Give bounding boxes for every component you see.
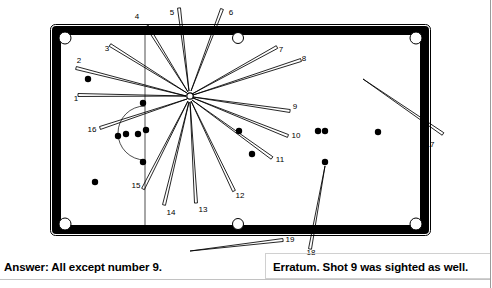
shot-label-19: 19 <box>286 235 295 244</box>
pocket-bottom-left <box>59 218 71 230</box>
object-ball <box>140 159 146 165</box>
shot-label-10: 10 <box>292 131 301 140</box>
object-ball <box>140 100 146 106</box>
shot-label-12: 12 <box>236 191 245 200</box>
shot-label-2: 2 <box>77 56 82 65</box>
shot-label-4: 4 <box>135 12 140 21</box>
object-ball <box>315 128 321 134</box>
figure-page: 12345678910111213141516171819 Answer: Al… <box>0 0 492 288</box>
shot-label-15: 15 <box>132 181 141 190</box>
shot-line-19 <box>190 239 283 251</box>
shot-ray <box>190 239 283 251</box>
shot-label-5: 5 <box>170 8 175 17</box>
object-ball <box>123 131 129 137</box>
shot-label-7: 7 <box>279 45 284 54</box>
object-ball <box>135 131 141 137</box>
pocket-bottom-right <box>410 218 422 230</box>
object-ball <box>143 127 149 133</box>
shot-label-11: 11 <box>276 155 285 164</box>
pocket-top-right <box>410 32 422 44</box>
shot-label-8: 8 <box>302 54 307 63</box>
object-ball <box>322 128 328 134</box>
object-ball <box>236 128 242 134</box>
answer-caption: Answer: All except number 9. <box>4 261 162 273</box>
shot-label-14: 14 <box>167 208 176 217</box>
shot-label-3: 3 <box>105 44 110 53</box>
pocket-bottom-middle <box>233 219 244 230</box>
object-ball <box>375 129 381 135</box>
page-edge-rule <box>490 0 491 288</box>
object-ball <box>249 151 255 157</box>
shot-label-16: 16 <box>88 125 97 134</box>
pocket-top-left <box>59 32 71 44</box>
shot-label-9: 9 <box>293 102 298 111</box>
object-ball <box>115 133 121 139</box>
shot-label-13: 13 <box>199 205 208 214</box>
object-ball <box>322 159 328 165</box>
shot-label-1: 1 <box>74 94 79 103</box>
cue-ball <box>187 93 193 99</box>
shot-label-6: 6 <box>229 8 234 17</box>
pocket-top-middle <box>233 33 244 44</box>
billiards-diagram: 12345678910111213141516171819 <box>0 0 492 288</box>
object-ball <box>85 76 91 82</box>
object-ball <box>92 179 98 185</box>
shot-label-17: 17 <box>426 140 435 149</box>
caption-divider <box>0 279 491 280</box>
erratum-caption: Erratum. Shot 9 was sighted as well. <box>273 261 468 273</box>
